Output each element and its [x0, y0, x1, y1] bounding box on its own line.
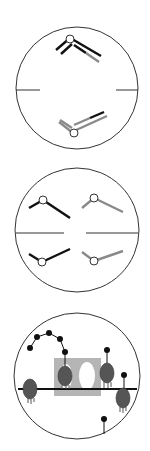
centromere-icon	[70, 129, 78, 137]
chromatid-upper-left	[29, 196, 70, 218]
panel-3	[14, 313, 140, 439]
protein-right-upper	[100, 347, 114, 388]
chromatid-lower-right	[82, 251, 123, 265]
free-bead-stalk	[101, 416, 107, 434]
protein-left	[23, 379, 37, 404]
chromatid-lower-left	[29, 249, 70, 266]
bottom-bivalent	[59, 112, 107, 137]
panel-1	[16, 27, 138, 149]
centromere-icon	[66, 35, 74, 43]
protein-right-lower	[116, 372, 130, 413]
centromere-icon	[39, 196, 47, 204]
centromere-icon	[90, 257, 98, 265]
panel-2	[15, 168, 139, 292]
chromatid-upper-right	[82, 194, 123, 212]
diagram-canvas	[0, 0, 150, 451]
centromere-icon	[90, 194, 98, 202]
panel-2-circle	[15, 168, 139, 292]
top-bivalent	[56, 35, 101, 62]
centromere-icon	[38, 258, 46, 266]
